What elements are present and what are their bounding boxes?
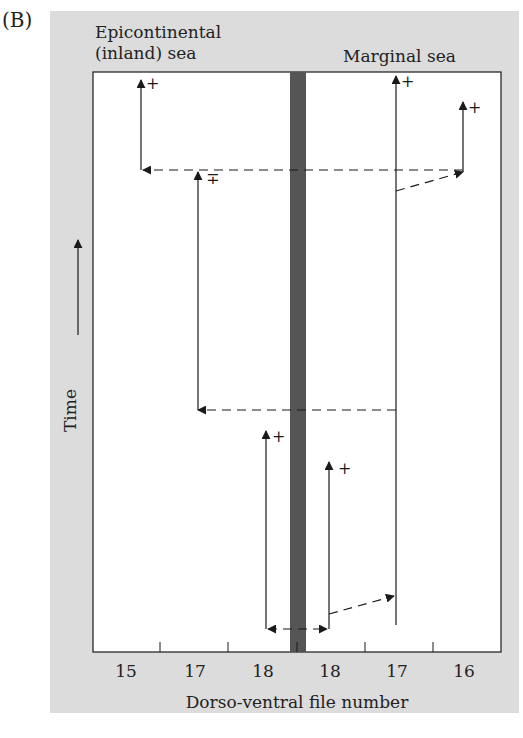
x-tick-label: 18 (252, 661, 274, 681)
y-axis-label: Time (60, 389, 80, 432)
plus-mark-3: + (401, 72, 414, 91)
x-tick-label: 17 (386, 661, 408, 681)
x-tick-label: 17 (184, 661, 206, 681)
plus-mark-5: + (272, 427, 285, 446)
plus-mark-1: + (146, 74, 159, 93)
plus-mark-6: + (338, 459, 351, 478)
x-axis-label: Dorso-ventral file number (186, 692, 409, 712)
x-tick-label: 16 (453, 661, 475, 681)
plus-mark-2: ∓ (206, 169, 219, 188)
plus-mark-4: + (468, 98, 481, 117)
x-tick-label: 15 (115, 661, 137, 681)
x-tick-label: 18 (319, 661, 341, 681)
phylogeny-diagram: + ∓ + + + + (0, 0, 523, 738)
divider-bar (290, 72, 306, 652)
